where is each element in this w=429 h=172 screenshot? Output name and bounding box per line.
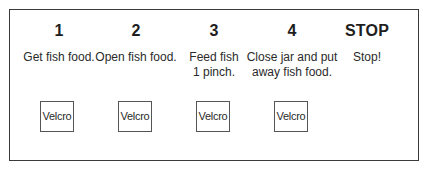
step-number: 2 — [131, 22, 140, 40]
velcro-slot-1[interactable]: Velcro — [40, 101, 74, 132]
step-number: 1 — [54, 22, 63, 40]
stop-instruction: Stop! — [312, 50, 422, 65]
velcro-slot-3[interactable]: Velcro — [196, 101, 230, 132]
velcro-slot-2[interactable]: Velcro — [118, 101, 152, 132]
visual-schedule-board: 1 Get fish food. 2 Open fish food. 3 Fee… — [9, 9, 419, 161]
step-number: 3 — [209, 22, 218, 40]
stop-label: STOP — [345, 22, 389, 40]
velcro-slot-4[interactable]: Velcro — [274, 101, 308, 132]
step-number: 4 — [287, 22, 296, 40]
